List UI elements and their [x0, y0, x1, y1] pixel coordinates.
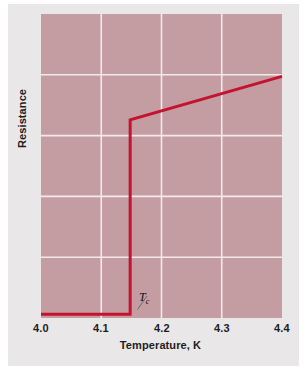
xaxis-title: Temperature, K [0, 339, 307, 351]
xaxis-title-text: Temperature, K [106, 339, 201, 351]
xtick-label-3: 4.3 [214, 322, 230, 334]
annotation-tc-label: Tc [139, 290, 149, 306]
xtick-label-4: 4.4 [274, 322, 290, 334]
annotation-tc-subscript: c [146, 297, 150, 306]
xtick-label-1: 4.1 [93, 322, 109, 334]
figure-container: 4.0 4.1 4.2 4.3 4.4 Temperature, K Resis… [0, 0, 307, 377]
chart-plot-svg [0, 0, 307, 377]
xtick-label-2: 4.2 [154, 322, 170, 334]
xtick-label-0: 4.0 [33, 322, 49, 334]
yaxis-title: Resistance [16, 132, 28, 148]
annotation-tc-symbol: T [139, 290, 146, 304]
